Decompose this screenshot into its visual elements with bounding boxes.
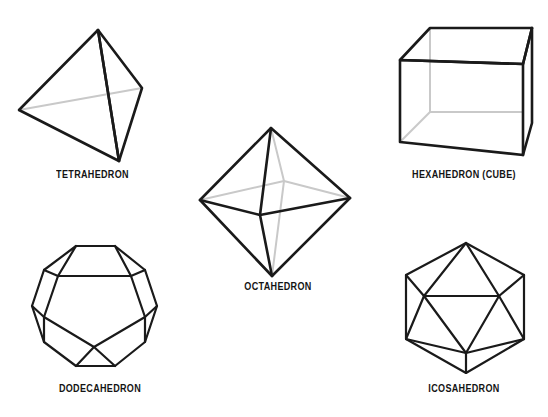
label-hexahedron: HEXAHEDRON (CUBE): [395, 168, 533, 180]
icosahedron-cap-edge-outer-right: [499, 275, 524, 296]
label-octahedron: OCTAHEDRON: [204, 280, 352, 292]
icosahedron-band-diagonal-right: [466, 296, 499, 353]
dodecahedron-spoke-4: [131, 270, 145, 276]
figure-tetrahedron: [6, 18, 156, 168]
dodecahedron-spoke-1: [44, 270, 58, 276]
dodecahedron-spoke-3: [115, 246, 131, 276]
octahedron-hidden-edge-back-top: [271, 128, 284, 181]
octahedron-front-edge-top: [260, 128, 271, 215]
octahedron-hidden-edge-back-bottom: [272, 181, 284, 276]
label-icosahedron: ICOSAHEDRON: [395, 382, 533, 394]
icosahedron-cap-edge-outer-left: [406, 275, 424, 296]
octahedron-hidden-edge-back-upper: [200, 181, 350, 200]
octahedron-front-equator: [200, 198, 350, 215]
hexahedron-hidden-edge-diagonal: [400, 112, 430, 142]
icosahedron-drawing: [396, 240, 546, 380]
figure-hexahedron: [392, 20, 542, 170]
figure-icosahedron: [396, 240, 546, 380]
dodecahedron-spoke-2: [58, 246, 76, 276]
hexahedron-drawing: [392, 20, 542, 170]
label-tetrahedron: TETRAHEDRON: [17, 168, 169, 180]
icosahedron-cap-edge-left: [424, 243, 466, 296]
dodecahedron-drawing: [14, 243, 174, 373]
tetrahedron-drawing: [6, 18, 156, 168]
icosahedron-band-edge-right-down: [499, 296, 524, 339]
figure-octahedron: [192, 118, 362, 293]
hexahedron-top-face: [400, 28, 532, 64]
hexahedron-right-edge-top: [523, 28, 532, 64]
platonic-solids-diagram: TETRAHEDRON HEXAHEDRON (CUBE): [0, 0, 548, 417]
icosahedron-lower-edge-right: [466, 339, 524, 353]
dodecahedron-spoke-8: [76, 347, 94, 366]
dodecahedron-inner-pentagon: [44, 276, 145, 347]
icosahedron-band-edge-left-down: [406, 296, 424, 339]
octahedron-drawing: [192, 118, 362, 293]
hexahedron-front-face: [400, 60, 523, 155]
label-dodecahedron: DODECAHEDRON: [18, 382, 182, 394]
dodecahedron-spoke-7: [94, 347, 115, 366]
figure-dodecahedron: [14, 243, 174, 373]
